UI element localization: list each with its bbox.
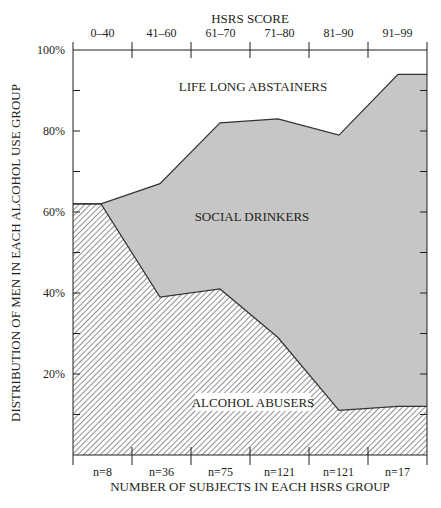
subject-count-label: n=121 [264, 465, 295, 479]
hsrs-score-label: 41–60 [147, 26, 177, 40]
hsrs-score-label: 0–40 [91, 26, 115, 40]
bottom-axis-title: NUMBER OF SUBJECTS IN EACH HSRS GROUP [110, 479, 390, 494]
hsrs-score-label: 81–90 [324, 26, 354, 40]
subject-count-label: n=36 [149, 465, 174, 479]
y-tick-label: 20% [43, 367, 65, 381]
y-tick-label: 100% [37, 43, 65, 57]
hsrs-score-label: 61–70 [206, 26, 236, 40]
y-tick-label: 60% [43, 205, 65, 219]
subject-count-label: n=8 [93, 465, 112, 479]
y-tick-label: 40% [43, 286, 65, 300]
y-tick-label: 80% [43, 124, 65, 138]
stacked-area-chart: 0–40n=841–60n=3661–70n=7571–80n=12181–90… [0, 0, 441, 508]
area-label-alcohol-abusers: ALCOHOL ABUSERS [192, 395, 315, 410]
y-axis-title: DISTRIBUTION OF MEN IN EACH ALCOHOL USE … [8, 84, 23, 422]
area-label-abstainers: LIFE LONG ABSTAINERS [179, 79, 327, 94]
subject-count-label: n=75 [208, 465, 233, 479]
area-label-social-drinkers: SOCIAL DRINKERS [195, 209, 310, 224]
hsrs-score-label: 91–99 [383, 26, 413, 40]
subject-count-label: n=17 [385, 465, 410, 479]
top-axis-title: HSRS SCORE [211, 11, 289, 26]
subject-count-label: n=121 [323, 465, 354, 479]
hsrs-score-label: 71–80 [265, 26, 295, 40]
